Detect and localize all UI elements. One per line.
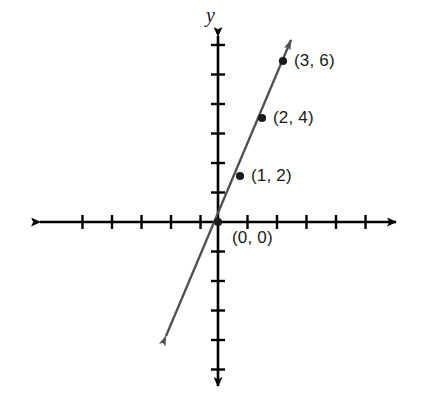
data-point-3[interactable] — [279, 57, 287, 65]
point-label-0-0: (0, 0) — [232, 228, 273, 248]
data-line — [166, 40, 291, 336]
data-line-group — [166, 40, 291, 336]
data-point-0[interactable] — [214, 218, 222, 226]
y-axis-label: y — [206, 4, 215, 27]
point-label-1-2: (1, 2) — [251, 166, 292, 186]
data-point-1[interactable] — [236, 172, 244, 180]
coordinate-plane-svg — [0, 0, 426, 416]
graph-figure: y (0, 0) (1, 2) (2, 4) (3, 6) — [0, 0, 426, 416]
data-points-group — [214, 57, 287, 226]
point-label-3-6: (3, 6) — [294, 51, 335, 71]
point-label-2-4: (2, 4) — [273, 108, 314, 128]
data-point-2[interactable] — [258, 114, 266, 122]
